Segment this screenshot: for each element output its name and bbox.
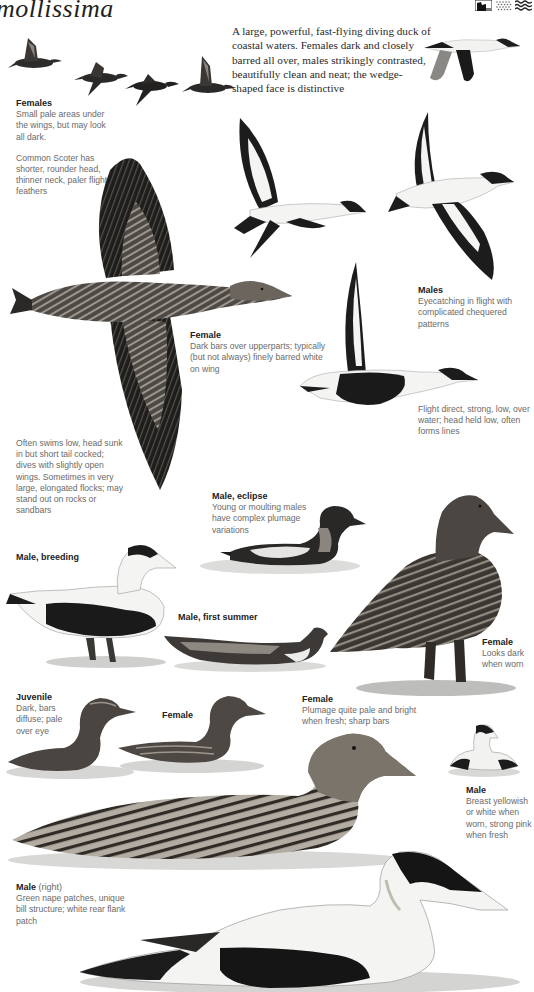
caption-heading-text: Male xyxy=(16,882,36,892)
caption-heading: Male xyxy=(466,785,534,796)
male-flight-low xyxy=(300,262,480,410)
caption-text: Flight direct, strong, low, over water; … xyxy=(418,404,530,438)
male-breeding-standing xyxy=(6,534,176,674)
caption-swimming-behaviour: Often swims low, head sunk in but short … xyxy=(16,438,126,516)
caption-female-standing: Female Looks dark when worn xyxy=(482,637,534,671)
caption-text: Often swims low, head sunk in but short … xyxy=(16,438,126,516)
female-flight-silhouette-3 xyxy=(124,72,180,108)
caption-flight-behaviour: Flight direct, strong, low, over water; … xyxy=(418,404,530,438)
cliff-icon xyxy=(475,0,492,11)
habitat-icons xyxy=(475,0,532,11)
caption-female-swimming-large: Female Plumage quite pale and bright whe… xyxy=(302,694,417,728)
caption-text: Breast yellowish or white when worn, str… xyxy=(466,796,534,841)
female-flight-silhouette-4 xyxy=(180,52,236,98)
male-flight-center xyxy=(230,118,370,263)
shore-icon xyxy=(495,0,512,11)
male-first-summer-swimming xyxy=(160,624,330,674)
caption-male-small: Male Breast yellowish or white when worn… xyxy=(466,785,534,841)
caption-heading: Female xyxy=(302,694,417,705)
caption-text: Plumage quite pale and bright when fresh… xyxy=(302,705,417,727)
female-flight-silhouette-1 xyxy=(6,36,64,76)
caption-text: Small pale areas under the wings, but ma… xyxy=(16,109,116,143)
species-intro: A large, powerful, fast-flying diving du… xyxy=(232,24,432,95)
caption-heading: Male, first summer xyxy=(178,612,298,623)
caption-male-first-summer: Male, first summer xyxy=(178,612,298,623)
male-swimming-small xyxy=(446,722,522,778)
caption-text: Looks dark when worn xyxy=(482,648,534,670)
male-flight-right xyxy=(388,112,523,282)
female-flight-silhouette-2 xyxy=(74,58,130,98)
male-swimming-large xyxy=(70,850,520,992)
caption-heading: Females xyxy=(16,98,116,109)
male-flight-topright xyxy=(420,30,524,86)
caption-heading: Female xyxy=(482,637,534,648)
species-title: mollissima xyxy=(0,0,114,24)
sea-icon xyxy=(515,0,532,11)
caption-heading-note: (right) xyxy=(39,882,63,892)
